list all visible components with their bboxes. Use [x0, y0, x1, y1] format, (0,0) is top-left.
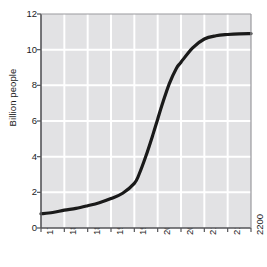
population-chart: Billion people 024681012 175018001850190… — [0, 0, 267, 267]
plot-area — [0, 0, 267, 267]
